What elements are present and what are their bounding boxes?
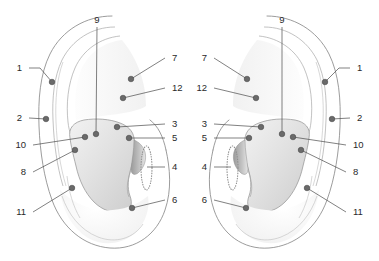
point-label-right-ear-9[interactable]: 9 [279,14,284,25]
point-label-left-ear-1[interactable]: 1 [17,62,22,73]
point-dot-left-ear-10[interactable] [82,134,88,140]
right-scapha-groove [313,62,323,186]
point-dot-right-ear-5[interactable] [246,135,252,141]
leader-line-left-ear-point-9 [96,27,97,134]
point-label-left-ear-6[interactable]: 6 [172,194,177,205]
point-label-right-ear-6[interactable]: 6 [202,194,207,205]
leader-line-right-ear-point-8 [301,150,346,172]
point-label-right-ear-1[interactable]: 1 [357,62,362,73]
point-dot-left-ear-9[interactable] [93,131,99,137]
point-dot-right-ear-6[interactable] [243,205,249,211]
point-label-left-ear-9[interactable]: 9 [94,14,99,25]
point-label-left-ear-11[interactable]: 11 [16,206,26,217]
point-dot-right-ear-9[interactable] [279,131,285,137]
point-dot-left-ear-12[interactable] [120,95,126,101]
point-label-right-ear-4[interactable]: 4 [202,161,207,172]
point-label-left-ear-8[interactable]: 8 [21,166,26,177]
point-dot-left-ear-2[interactable] [43,116,49,122]
leader-line-left-ear-point-8 [33,150,75,172]
point-label-left-ear-3[interactable]: 3 [172,118,177,129]
point-dot-left-ear-5[interactable] [126,135,132,141]
point-dot-right-ear-8[interactable] [298,147,304,153]
point-dot-left-ear-8[interactable] [72,147,78,153]
point-dot-left-ear-6[interactable] [129,205,135,211]
point-dot-right-ear-3[interactable] [258,124,264,130]
point-dot-left-ear-7[interactable] [128,76,134,82]
point-label-right-ear-11[interactable]: 11 [353,206,363,217]
point-dot-right-ear-1[interactable] [322,79,328,85]
right-ear-illustration [209,16,340,248]
point-label-right-ear-5[interactable]: 5 [202,132,207,143]
point-dot-left-ear-1[interactable] [49,79,55,85]
point-dot-left-ear-11[interactable] [69,185,75,191]
leader-line-left-ear-point-1 [29,68,52,82]
left-concha-body [70,119,135,213]
ear-diagram-canvas: 121081197123546121081197123546 [0,0,379,261]
ear-points-diagram: 121081197123546121081197123546 [0,0,379,261]
left-ear-illustration [39,16,170,248]
point-label-right-ear-7[interactable]: 7 [202,52,207,63]
point-dot-right-ear-2[interactable] [329,116,335,122]
right-concha-body [244,119,309,213]
point-label-left-ear-7[interactable]: 7 [172,52,177,63]
point-label-right-ear-2[interactable]: 2 [357,112,362,123]
point-dot-right-ear-11[interactable] [304,185,310,191]
point-label-left-ear-4[interactable]: 4 [172,161,177,172]
point-dot-right-ear-10[interactable] [290,134,296,140]
point-label-right-ear-8[interactable]: 8 [353,166,358,177]
point-dot-right-ear-7[interactable] [244,76,250,82]
point-dot-right-ear-12[interactable] [253,95,259,101]
point-label-right-ear-12[interactable]: 12 [196,82,207,93]
point-label-right-ear-10[interactable]: 10 [353,139,364,150]
left-scapha-groove [56,62,66,186]
point-label-left-ear-10[interactable]: 10 [15,139,26,150]
point-label-left-ear-12[interactable]: 12 [172,82,183,93]
point-label-left-ear-5[interactable]: 5 [172,132,177,143]
point-label-left-ear-2[interactable]: 2 [17,112,22,123]
point-label-right-ear-3[interactable]: 3 [202,118,207,129]
point-dot-left-ear-3[interactable] [114,124,120,130]
